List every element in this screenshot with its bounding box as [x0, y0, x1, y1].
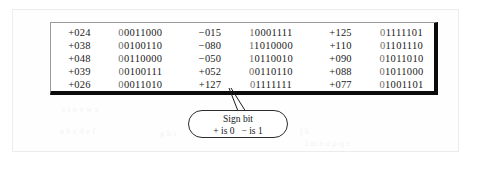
- magnitude-bits: 0011000: [124, 27, 162, 38]
- decimal-value: +048: [51, 52, 108, 65]
- magnitude-bits: 0100111: [124, 66, 162, 77]
- column-gap: [303, 78, 312, 91]
- binary-value: 01001101: [369, 78, 434, 91]
- ghost-text-line-4: l m n o p q r: [305, 138, 349, 149]
- magnitude-bits: 0001111: [255, 27, 293, 38]
- binary-value: 10001111: [238, 26, 303, 39]
- callout-title: Sign bit: [189, 113, 287, 125]
- magnitude-bits: 0110110: [255, 66, 293, 77]
- magnitude-bits: 0110010: [254, 53, 292, 64]
- binary-value: 00100110: [108, 39, 173, 52]
- column-gap: [173, 39, 182, 52]
- binary-value: 00110000: [108, 52, 173, 65]
- callout-rule-minus: − is 1: [242, 126, 263, 136]
- callout-rule-plus: + is 0: [213, 126, 234, 136]
- table-inner: +024 00011000 −015 10001111 +125 0111110…: [51, 23, 434, 91]
- magnitude-bits: 1111111: [255, 79, 292, 90]
- decimal-value: +039: [51, 65, 108, 78]
- binary-value: 00011000: [108, 26, 173, 39]
- ghost-text-line-5: s t u v w x: [62, 104, 99, 115]
- decimal-value: +038: [51, 39, 108, 52]
- decimal-value: +052: [182, 65, 239, 78]
- binary-value: 11010000: [238, 39, 303, 52]
- ghost-text-line-1: a b c d e f: [60, 126, 95, 137]
- magnitude-bits: 1001101: [385, 79, 423, 90]
- decimal-value: +088: [312, 65, 369, 78]
- column-gap: [173, 52, 182, 65]
- table-row: +048 00110000 −050 10110010 +090 0101101…: [51, 52, 434, 65]
- decimal-value: −080: [182, 39, 239, 52]
- table-row: +026 00011010 +127 01111111 +077 0100110…: [51, 78, 434, 91]
- column-gap: [173, 78, 182, 91]
- table-body: +024 00011000 −015 10001111 +125 0111110…: [51, 26, 434, 91]
- ghost-text-line-3: j k: [300, 126, 309, 137]
- binary-value: 00011010: [108, 78, 173, 91]
- table-row: +024 00011000 −015 10001111 +125 0111110…: [51, 26, 434, 39]
- binary-value: 10110010: [238, 52, 303, 65]
- decimal-value: −015: [182, 26, 239, 39]
- binary-value: 01101110: [369, 39, 434, 52]
- column-gap: [173, 65, 182, 78]
- magnitude-bits: 0011010: [124, 79, 162, 90]
- magnitude-bits: 0100110: [124, 40, 162, 51]
- sign-bit-callout: Sign bit + is 0− is 1: [188, 110, 288, 138]
- decimal-value: +024: [51, 26, 108, 39]
- signed-magnitude-table-box: +024 00011000 −015 10001111 +125 0111110…: [50, 22, 438, 95]
- magnitude-bits: 1011010: [385, 53, 423, 64]
- binary-value: 00100111: [108, 65, 173, 78]
- decimal-value: −050: [182, 52, 239, 65]
- column-gap: [173, 26, 182, 39]
- signed-magnitude-table: +024 00011000 −015 10001111 +125 0111110…: [51, 26, 434, 91]
- magnitude-bits: 1011000: [385, 66, 423, 77]
- table-row: +039 00100111 +052 00110110 +088 0101100…: [51, 65, 434, 78]
- column-gap: [303, 52, 312, 65]
- decimal-value: +077: [312, 78, 369, 91]
- column-gap: [303, 39, 312, 52]
- decimal-value: +125: [312, 26, 369, 39]
- decimal-value: +026: [51, 78, 108, 91]
- magnitude-bits: 1010000: [254, 40, 293, 51]
- binary-value: 00110110: [238, 65, 303, 78]
- column-gap: [303, 65, 312, 78]
- magnitude-bits: 1101110: [385, 40, 423, 51]
- ghost-text-line-2: g h i: [160, 128, 176, 139]
- decimal-value: +110: [312, 39, 369, 52]
- table-row: +038 00100110 −080 11010000 +110 0110111…: [51, 39, 434, 52]
- binary-value: 01011010: [369, 52, 434, 65]
- magnitude-bits: 1111101: [386, 27, 423, 38]
- magnitude-bits: 0110000: [124, 53, 162, 64]
- column-gap: [303, 26, 312, 39]
- binary-value: 01111101: [369, 26, 434, 39]
- callout-rules: + is 0− is 1: [189, 125, 287, 137]
- decimal-value: +090: [312, 52, 369, 65]
- binary-value: 01011000: [369, 65, 434, 78]
- binary-value-highlighted: 01111111: [238, 78, 303, 91]
- decimal-value: +127: [182, 78, 239, 91]
- figure-page: a b c d e f g h i j k l m n o p q r s t …: [0, 0, 485, 169]
